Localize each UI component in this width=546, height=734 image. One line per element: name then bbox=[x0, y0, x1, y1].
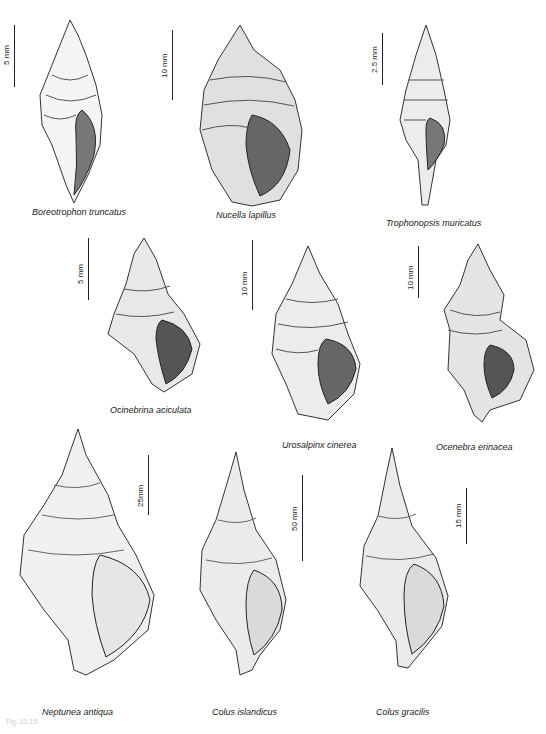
specimen-label: Trophonopsis muricatus bbox=[386, 218, 481, 228]
scale-label: 2.5 mm bbox=[370, 46, 379, 73]
shell-drawing-boreotrophon-truncatus bbox=[30, 15, 130, 205]
shell-drawing-colus-gracilis bbox=[356, 446, 456, 676]
specimen-label: Ocinebrina aciculata bbox=[110, 405, 192, 415]
shell-drawing-nucella-lapillus bbox=[190, 20, 310, 210]
scale-label: 5 mm bbox=[2, 45, 11, 65]
scale-label: 15 mm bbox=[454, 504, 463, 528]
specimen-label: Colus gracilis bbox=[376, 707, 430, 717]
scale-label: 10 mm bbox=[160, 54, 169, 78]
shell-drawing-urosalpinx-cinerea bbox=[268, 244, 368, 424]
shell-drawing-trophonopsis-muricatus bbox=[396, 20, 486, 210]
specimen-label: Nucella lapillus bbox=[216, 210, 276, 220]
scale-label: 10 mm bbox=[406, 266, 415, 290]
specimen-label: Neptunea antiqua bbox=[42, 707, 113, 717]
specimen-label: Boreotrophon truncatus bbox=[32, 207, 126, 217]
specimen-label: Urosalpinx cinerea bbox=[282, 440, 357, 450]
shell-drawing-colus-islandicus bbox=[196, 450, 292, 680]
shell-illustration-plate: 5 mm Boreotrophon truncatus 10 mm Nucell… bbox=[0, 0, 546, 734]
scale-label: 5 mm bbox=[76, 264, 85, 284]
shell-drawing-ocenebra-erinacea bbox=[430, 240, 536, 425]
shell-drawing-neptunea-antiqua bbox=[14, 425, 164, 685]
scale-label: 50 mm bbox=[290, 507, 299, 531]
scale-label: 10 mm bbox=[240, 272, 249, 296]
specimen-label: Colus islandicus bbox=[212, 707, 277, 717]
shell-drawing-ocinebrina-aciculata bbox=[104, 234, 204, 394]
figure-footer: Fig. 10.15 bbox=[6, 718, 37, 725]
